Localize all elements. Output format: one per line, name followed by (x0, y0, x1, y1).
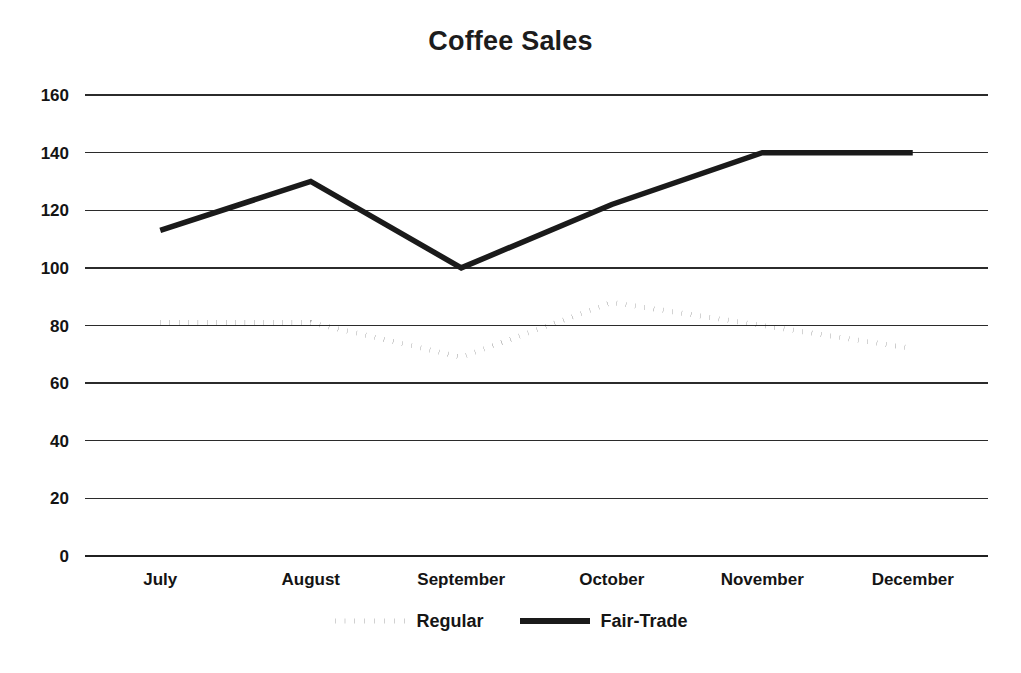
y-axis-tick-labels: 020406080100120140160 (41, 86, 69, 566)
y-axis-tick-label: 80 (50, 317, 69, 336)
legend-item-fair-trade: Fair-Trade (518, 612, 688, 630)
data-series-group (160, 153, 913, 358)
x-axis-tick-labels: JulyAugustSeptemberOctoberNovemberDecemb… (143, 570, 954, 589)
dotted-line-swatch-icon (333, 614, 407, 628)
x-axis-tick-label: August (281, 570, 340, 589)
x-axis-tick-label: September (417, 570, 505, 589)
y-axis-tick-label: 20 (50, 489, 69, 508)
y-axis-tick-label: 100 (41, 259, 69, 278)
y-axis-tick-label: 120 (41, 201, 69, 220)
y-axis-tick-label: 160 (41, 86, 69, 105)
x-axis-tick-label: December (872, 570, 955, 589)
x-axis-tick-label: October (579, 570, 645, 589)
legend-label-fair-trade: Fair-Trade (601, 612, 688, 630)
y-axis-tick-label: 140 (41, 144, 69, 163)
chart-legend: Regular Fair-Trade (0, 612, 1021, 630)
legend-label-regular: Regular (416, 612, 483, 630)
coffee-sales-chart: Coffee Sales 020406080100120140160 JulyA… (0, 0, 1021, 673)
x-axis-tick-label: November (721, 570, 805, 589)
y-axis-tick-label: 0 (60, 547, 69, 566)
y-axis-tick-label: 40 (50, 432, 69, 451)
x-axis-tick-label: July (143, 570, 178, 589)
y-axis-tick-label: 60 (50, 374, 69, 393)
solid-line-swatch-icon (518, 614, 592, 628)
series-line-regular (160, 302, 913, 357)
legend-item-regular: Regular (333, 612, 483, 630)
gridlines-group (85, 95, 988, 556)
plot-area: 020406080100120140160 JulyAugustSeptembe… (0, 0, 1021, 673)
